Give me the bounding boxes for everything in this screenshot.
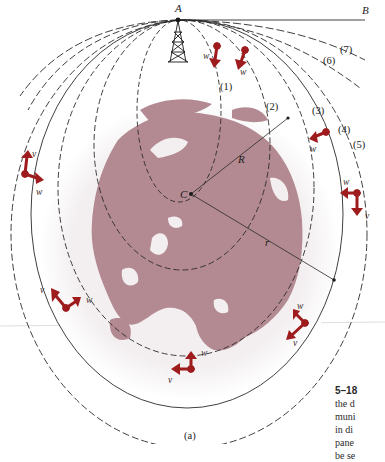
caption-line: pane: [335, 436, 385, 449]
label-center-c: C: [180, 189, 187, 200]
satellite-4: [340, 187, 363, 216]
vector-label-w: w: [201, 349, 207, 359]
subfigure-label: (a): [184, 430, 196, 441]
caption-line: in di: [335, 423, 385, 436]
vector-label-w: w: [86, 296, 92, 306]
vector-label-v: v: [32, 150, 36, 160]
figure-number: 5–18: [335, 384, 385, 397]
vector-label-v: v: [40, 286, 44, 296]
tower-icon: [168, 21, 188, 62]
orbit-label-4: (4): [338, 125, 350, 136]
satellite-1: [209, 43, 221, 68]
orbit-label-6: (6): [323, 56, 335, 67]
caption-line: the d: [335, 397, 385, 410]
vector-label-w: w: [343, 178, 349, 188]
center-point-c: [189, 192, 193, 196]
orbit-label-5: (5): [353, 140, 365, 151]
vector-label-v: v: [365, 212, 369, 222]
caption-line: be se: [335, 449, 385, 462]
vector-label-w: w: [203, 52, 209, 62]
label-radius-small-r: r: [265, 237, 269, 248]
label-point-b: B: [362, 5, 369, 16]
figure-caption: 5–18 the d muni in di pane be se: [335, 384, 385, 462]
label-point-a: A: [175, 3, 182, 14]
label-radius-big-r: R: [238, 154, 245, 165]
caption-line: muni: [335, 410, 385, 423]
orbit-label-2: (2): [266, 102, 278, 113]
vector-label-w: w: [36, 188, 42, 198]
satellite-3: [309, 129, 329, 143]
vector-label-w: w: [310, 145, 316, 155]
orbit-label-3: (3): [312, 106, 324, 117]
vector-label-v: v: [293, 339, 297, 349]
orbit-label-7: (7): [340, 45, 352, 56]
vector-label-w: w: [240, 68, 246, 78]
vector-label-w: w: [297, 302, 303, 312]
orbit-label-1: (1): [220, 82, 232, 93]
vector-label-v: v: [168, 376, 172, 386]
